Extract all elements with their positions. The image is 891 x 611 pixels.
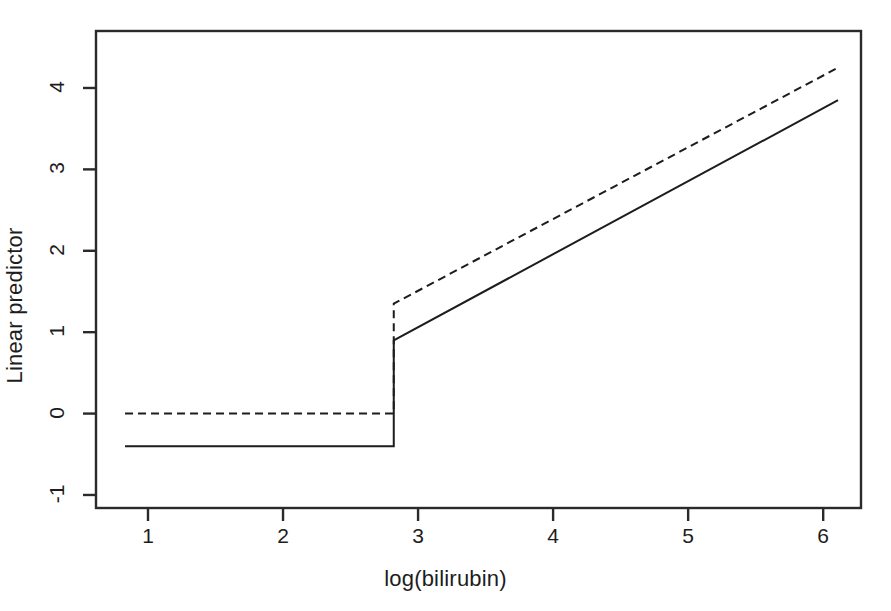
x-tick-label: 5 [682,524,694,548]
chart-background [0,0,891,611]
plot-canvas [0,0,891,611]
y-tick-label: 1 [45,311,69,351]
y-tick-label: 2 [45,230,69,270]
x-tick-label: 4 [547,524,559,548]
chart-figure: log(bilirubin) Linear predictor 123456 -… [0,0,891,611]
y-axis-title: Linear predictor [0,0,30,611]
x-tick-label: 3 [412,524,424,548]
x-tick-label: 6 [817,524,829,548]
x-tick-label: 1 [142,524,154,548]
y-tick-label: 4 [45,67,69,107]
x-axis-title: log(bilirubin) [0,566,891,592]
x-tick-label: 2 [277,524,289,548]
y-tick-label: 3 [45,148,69,188]
y-tick-label: 0 [45,393,69,433]
y-tick-label: -1 [45,474,69,514]
